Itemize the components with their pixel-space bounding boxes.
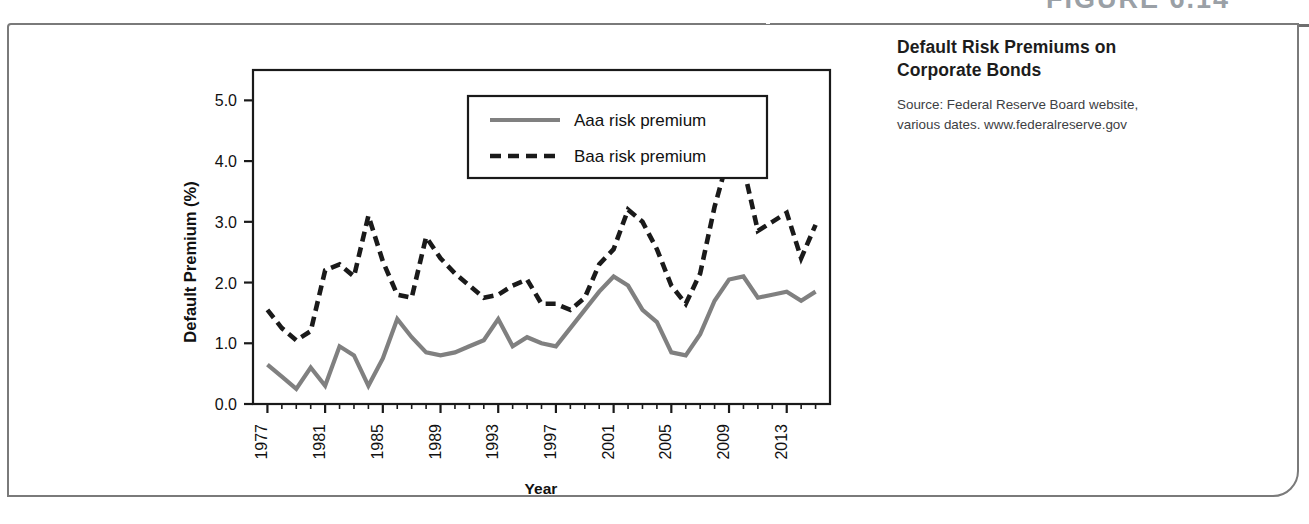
y-tick-label: 5.0 [215, 92, 237, 109]
y-axis-title: Default Premium (%) [181, 181, 199, 342]
x-tick-label: 2005 [657, 424, 674, 460]
x-tick-label: 1989 [427, 424, 444, 460]
legend-label-aaa: Aaa risk premium [574, 111, 706, 130]
y-tick-label: 4.0 [215, 153, 237, 170]
legend-label-baa: Baa risk premium [574, 147, 706, 166]
x-axis-ticks: 1977198119851989199319972001200520092013 [253, 404, 815, 460]
x-tick-label: 1981 [311, 424, 328, 460]
caption-source: Source: Federal Reserve Board website, v… [897, 95, 1149, 134]
y-tick-label: 3.0 [215, 214, 237, 231]
y-tick-label: 1.0 [215, 335, 237, 352]
caption-title: Default Risk Premiums on Corporate Bonds [897, 36, 1197, 82]
y-axis-ticks: 0.01.02.03.04.05.0 [215, 92, 253, 413]
x-tick-label: 2009 [715, 424, 732, 460]
x-tick-label: 2013 [773, 424, 790, 460]
figure-heading: FIGURE 6.14 [1046, 0, 1230, 15]
x-tick-label: 2001 [600, 424, 617, 460]
x-tick-label: 1997 [542, 424, 559, 460]
y-tick-label: 2.0 [215, 275, 237, 292]
x-tick-label: 1985 [369, 424, 386, 460]
x-axis-title: Year [525, 480, 558, 497]
default-risk-premium-line-chart: Default Premium (%) Year 0.01.02.03.04.0… [0, 0, 880, 524]
y-tick-label: 0.0 [215, 396, 237, 413]
chart-area: Default Premium (%) Year 0.01.02.03.04.0… [0, 0, 880, 524]
x-tick-label: 1993 [484, 424, 501, 460]
x-tick-label: 1977 [253, 424, 270, 460]
caption-panel: Default Risk Premiums on Corporate Bonds… [897, 36, 1197, 134]
chart-legend: Aaa risk premium Baa risk premium [468, 96, 767, 178]
